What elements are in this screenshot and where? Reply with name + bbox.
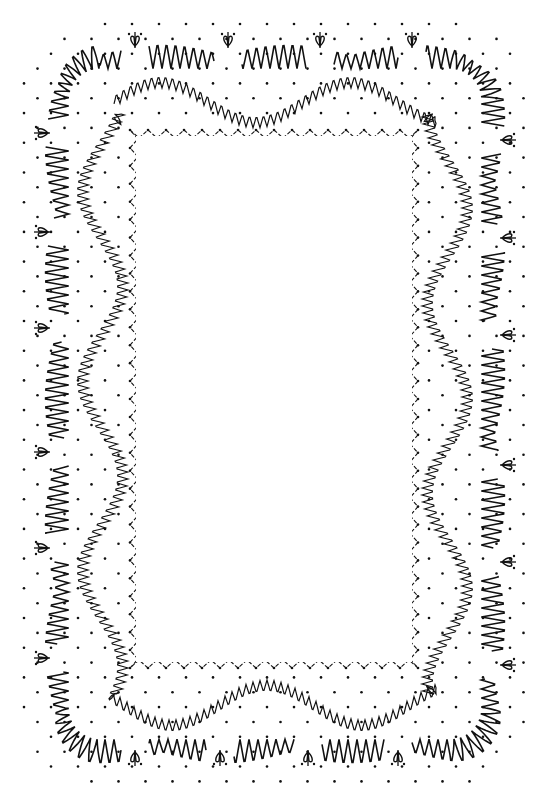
leaf-tally-icon [391,750,405,766]
leaf-tally-icon [213,750,227,766]
leaf-tally-icon [301,750,315,766]
leaf-tally-icon [34,126,50,140]
leaf-tally-icon [128,32,142,48]
lace-border-drawing [0,0,548,794]
leaf-tally-icon [405,32,419,48]
leaf-tally-icon [500,658,516,672]
leaf-tally-icon [500,328,516,342]
leaf-tally-icon [500,133,516,147]
leaf-tally-icon [34,225,50,239]
leaf-tally-icon [34,445,50,459]
leaf-tally-icon [34,651,50,665]
leaf-tally-icon [34,321,50,335]
blank-center-window [136,136,412,662]
leaf-tally-icon [34,541,50,555]
leaf-tally-icon [221,32,235,48]
leaf-tally-icon [128,750,142,766]
lace-pattern-canvas [0,0,548,794]
leaf-tally-icon [500,458,516,472]
leaf-tally-icon [500,231,516,245]
leaf-tally-icon [313,32,327,48]
leaf-tally-icon [500,555,516,569]
